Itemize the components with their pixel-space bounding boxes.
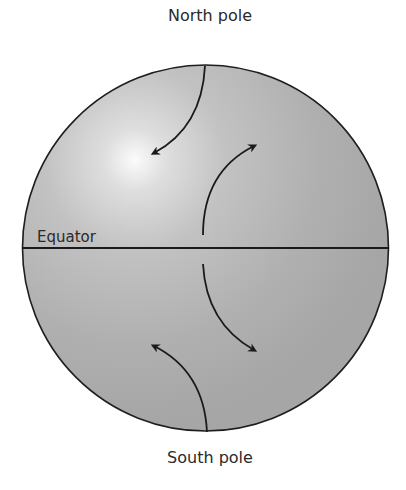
north-pole-label: North pole <box>0 6 406 25</box>
south-pole-label: South pole <box>0 448 406 467</box>
equator-label: Equator <box>37 228 96 246</box>
